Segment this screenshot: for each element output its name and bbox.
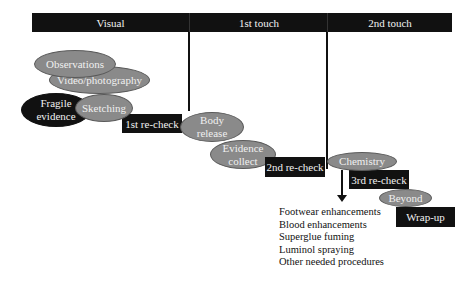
procedure-item: Other needed procedures — [279, 256, 384, 269]
node-label: Fragileevidence — [36, 97, 75, 123]
observations-node: Observations — [34, 50, 116, 78]
node-label: Chemistry — [339, 155, 385, 168]
box-label: 2nd re-check — [266, 161, 323, 173]
second-recheck-box: 2nd re-check — [265, 157, 325, 177]
divider-line-visual — [188, 32, 190, 111]
phase-label: Visual — [96, 17, 124, 29]
first-recheck-box: 1st re-check — [122, 114, 182, 133]
node-label: Observations — [46, 58, 104, 71]
chemistry-node: Chemistry — [327, 152, 397, 171]
box-label: Wrap-up — [406, 211, 445, 223]
box-label: 3rd re-check — [351, 174, 406, 186]
procedure-item: Superglue fuming — [279, 231, 384, 244]
phase-label: 1st touch — [239, 17, 279, 29]
node-label: Beyond — [388, 192, 422, 205]
arrow-down-icon — [341, 170, 343, 196]
phase-label: 2nd touch — [368, 17, 412, 29]
phase-header-visual: Visual — [32, 13, 189, 32]
third-recheck-box: 3rd re-check — [349, 170, 409, 189]
procedure-item: Luminol spraying — [279, 244, 384, 257]
arrow-head-icon — [337, 195, 347, 202]
procedure-item: Footwear enhancements — [279, 206, 384, 219]
procedure-item: Blood enhancements — [279, 219, 384, 232]
wrap-up-box: Wrap-up — [396, 207, 455, 227]
sketching-node: Sketching — [75, 94, 133, 122]
box-label: 1st re-check — [125, 118, 178, 130]
divider-line-1st-touch — [326, 32, 328, 169]
phase-header-1st-touch: 1st touch — [189, 13, 328, 32]
phase-header-2nd-touch: 2nd touch — [327, 13, 452, 32]
beyond-node: Beyond — [379, 189, 432, 207]
body-release-node: Bodyrelease — [180, 112, 244, 142]
procedures-list: Footwear enhancements Blood enhancements… — [279, 206, 384, 269]
node-label: Evidencecollect — [223, 142, 264, 168]
node-label: Bodyrelease — [197, 114, 228, 140]
node-label: Sketching — [82, 102, 126, 115]
